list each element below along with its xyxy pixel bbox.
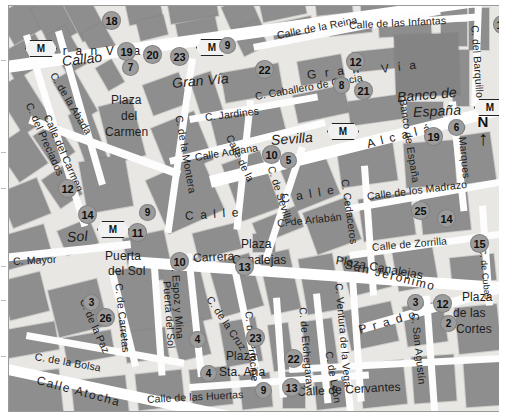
poi-marker[interactable]: 12	[433, 294, 452, 313]
poi-marker[interactable]: 9	[255, 382, 272, 399]
metro-station-sevilla[interactable]: M	[327, 123, 359, 140]
poi-marker[interactable]: 2	[440, 315, 457, 332]
city-block	[8, 224, 53, 269]
poi-marker[interactable]: 18	[102, 11, 121, 30]
poi-marker[interactable]: 25	[411, 201, 430, 220]
poi-marker[interactable]: 21	[354, 81, 373, 100]
poi-marker[interactable]: 22	[255, 60, 274, 79]
city-block	[8, 178, 51, 228]
right-gutter	[499, 0, 507, 418]
poi-marker[interactable]: 15	[470, 234, 489, 253]
city-block	[48, 279, 108, 338]
poi-marker[interactable]: 9	[139, 204, 156, 221]
poi-marker[interactable]: 23	[246, 328, 265, 347]
poi-marker[interactable]: 12	[58, 179, 77, 198]
city-block	[189, 72, 222, 117]
metro-station-callao[interactable]: M	[25, 40, 57, 57]
city-block	[404, 140, 457, 187]
poi-marker[interactable]: 5	[280, 152, 297, 169]
poi-marker[interactable]: 11	[128, 223, 147, 242]
city-block	[96, 59, 125, 91]
poi-marker[interactable]: 14	[78, 205, 97, 224]
poi-marker[interactable]: 19	[424, 127, 443, 146]
poi-marker[interactable]: 20	[143, 45, 162, 64]
poi-marker[interactable]: 10	[170, 252, 189, 271]
poi-marker[interactable]: 8	[333, 77, 350, 94]
poi-marker[interactable]: 19	[117, 42, 136, 61]
map-canvas[interactable]: G r a n V i a Callao Gran Vía G r a n V …	[8, 5, 501, 412]
left-gutter	[0, 0, 8, 418]
city-block	[464, 361, 501, 408]
poi-marker[interactable]: 14	[437, 209, 456, 228]
city-block-banco	[394, 33, 460, 97]
poi-marker[interactable]: 12	[346, 52, 365, 71]
city-block	[8, 272, 49, 320]
city-block	[348, 94, 405, 125]
compass-rose: N ↑	[470, 114, 496, 160]
city-block	[455, 304, 501, 354]
compass-arrow-icon: ↑	[478, 129, 488, 147]
metro-station-sol[interactable]: M	[97, 221, 129, 238]
poi-marker[interactable]: 3	[407, 294, 424, 311]
poi-marker[interactable]: 22	[284, 349, 303, 368]
poi-marker[interactable]: 9	[219, 37, 236, 54]
poi-marker[interactable]: 4	[189, 331, 206, 348]
poi-marker[interactable]: 3	[83, 294, 100, 311]
poi-marker[interactable]: 26	[96, 308, 115, 327]
poi-marker[interactable]: 10	[262, 145, 281, 164]
poi-marker[interactable]: 6	[448, 119, 465, 136]
poi-marker[interactable]: 13	[282, 378, 301, 397]
map-screenshot: G r a n V i a Callao Gran Vía G r a n V …	[0, 0, 507, 418]
poi-marker[interactable]: 7	[122, 59, 139, 76]
poi-marker[interactable]: 13	[235, 257, 254, 276]
poi-marker[interactable]: 23	[170, 47, 189, 66]
poi-marker[interactable]: 4	[200, 365, 217, 382]
